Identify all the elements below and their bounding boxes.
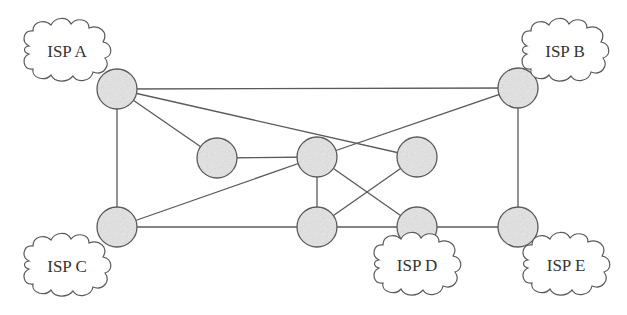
edge-a-b bbox=[117, 88, 518, 89]
isp-d-label: ISP D bbox=[397, 256, 437, 275]
router-node-ctr bbox=[297, 137, 337, 177]
isp-e-cloud: ISP E bbox=[523, 232, 610, 295]
isp-a-label: ISP A bbox=[47, 42, 87, 61]
isp-b-cloud: ISP B bbox=[522, 18, 609, 81]
isp-a-cloud: ISP A bbox=[24, 18, 111, 81]
router-node-ml bbox=[197, 138, 237, 178]
router-node-e bbox=[498, 207, 538, 247]
edge-a-mr bbox=[117, 89, 417, 157]
nodes-layer bbox=[97, 68, 538, 247]
isp-d-cloud: ISP D bbox=[374, 232, 461, 295]
isp-c-label: ISP C bbox=[47, 257, 87, 276]
isp-e-label: ISP E bbox=[547, 256, 586, 275]
isp-c-cloud: ISP C bbox=[24, 233, 111, 296]
router-node-mr bbox=[397, 137, 437, 177]
router-node-bc bbox=[297, 207, 337, 247]
isp-b-label: ISP B bbox=[545, 42, 585, 61]
router-node-a bbox=[97, 69, 137, 109]
network-diagram: ISP AISP BISP CISP DISP E bbox=[0, 0, 627, 315]
router-node-c bbox=[97, 207, 137, 247]
